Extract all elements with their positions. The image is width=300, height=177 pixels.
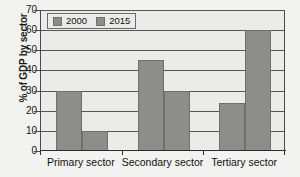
legend: 20002015 [47,13,136,29]
plot-area [40,10,285,151]
x-category-label: Secondary sector [122,155,204,169]
x-category-label: Tertiary sector [203,155,285,169]
gridline-70 [41,10,284,11]
bar [164,91,190,151]
x-category-label: Primary sector [40,155,122,169]
legend-swatch-icon [96,17,105,26]
x-axis-line [40,150,286,151]
legend-item: 2015 [96,16,130,26]
bar [245,30,271,151]
legend-label: 2015 [109,16,130,26]
plot-inner [41,10,284,151]
legend-swatch-icon [53,17,62,26]
legend-label: 2000 [66,16,87,26]
bar-chart: % of GDP by sector 010203040506070 Prima… [0,0,300,177]
bar [138,60,164,151]
bar [219,103,245,151]
bar [56,91,82,151]
legend-item: 2000 [53,16,87,26]
bar [82,131,108,151]
